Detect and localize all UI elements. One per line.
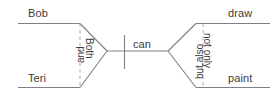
label-draw: draw [228, 8, 252, 19]
label-bob: Bob [28, 8, 48, 19]
line-right-bracket-top-edge [168, 24, 196, 52]
label-not-only: not only [202, 33, 212, 68]
line-right-bracket-bottom-edge [168, 51, 196, 88]
label-teri: Teri [28, 73, 46, 84]
label-paint: paint [228, 73, 252, 84]
label-can: can [133, 39, 151, 50]
label-both: Both [84, 38, 94, 59]
conjunction-diagram: Bob Teri can draw paint and Both but als… [0, 0, 280, 101]
